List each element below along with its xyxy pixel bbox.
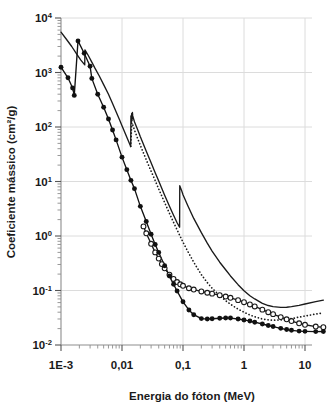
marker-filled-circle <box>76 38 81 43</box>
marker-open-circle <box>187 286 192 291</box>
data-markers <box>59 38 326 334</box>
marker-open-circle <box>313 324 318 329</box>
marker-filled-circle <box>120 155 125 160</box>
marker-filled-circle <box>217 316 222 321</box>
marker-filled-circle <box>297 329 302 334</box>
marker-filled-circle <box>95 92 100 97</box>
marker-open-circle <box>210 291 215 296</box>
marker-filled-circle <box>260 322 265 327</box>
marker-filled-circle <box>132 186 137 191</box>
marker-open-circle <box>141 224 146 229</box>
marker-open-circle <box>252 304 257 309</box>
marker-filled-circle <box>252 320 257 325</box>
y-axis-title: Coeficiente mássico (cm²/g) <box>5 105 17 258</box>
marker-filled-circle <box>271 324 276 329</box>
marker-open-circle <box>144 231 149 236</box>
marker-filled-circle <box>59 65 64 70</box>
marker-filled-circle <box>101 105 106 110</box>
x-tick-label: 0,1 <box>175 359 192 371</box>
marker-open-circle <box>289 319 294 324</box>
marker-open-circle <box>260 307 265 312</box>
marker-open-circle <box>321 325 326 330</box>
marker-filled-circle <box>124 167 129 172</box>
marker-filled-circle <box>199 316 204 321</box>
marker-filled-circle <box>247 319 252 324</box>
marker-filled-circle <box>138 204 143 209</box>
marker-open-circle <box>248 302 253 307</box>
marker-filled-circle <box>284 327 289 332</box>
y-tick-label: 100 <box>35 229 52 242</box>
x-tick-label: 10 <box>299 359 312 371</box>
marker-open-circle <box>223 294 228 299</box>
marker-filled-circle <box>72 93 77 98</box>
marker-filled-circle <box>89 76 94 81</box>
marker-filled-circle <box>236 317 241 322</box>
tick-marks <box>55 18 305 351</box>
marker-filled-circle <box>82 51 87 56</box>
marker-open-circle <box>156 256 161 261</box>
y-tick-label: 103 <box>35 66 52 79</box>
marker-filled-circle <box>167 273 172 278</box>
y-tick-label: 104 <box>35 11 53 24</box>
marker-filled-circle <box>191 312 196 317</box>
marker-open-circle <box>191 287 196 292</box>
x-tick-label: 1E-3 <box>49 359 73 371</box>
marker-filled-circle <box>242 318 247 323</box>
marker-filled-circle <box>228 316 233 321</box>
marker-filled-circle <box>321 329 326 334</box>
x-tick-labels: 1E-30,010,1110 <box>49 359 312 371</box>
marker-filled-circle <box>171 282 176 287</box>
marker-filled-circle <box>156 250 161 255</box>
marker-open-circle <box>271 312 276 317</box>
marker-filled-circle <box>153 242 158 247</box>
marker-filled-circle <box>223 316 228 321</box>
marker-filled-circle <box>266 323 271 328</box>
marker-filled-circle <box>186 307 191 312</box>
x-tick-label: 0,01 <box>111 359 134 371</box>
marker-filled-circle <box>289 328 294 333</box>
marker-open-circle <box>303 322 308 327</box>
marker-filled-circle <box>110 128 115 133</box>
marker-filled-circle <box>205 317 210 322</box>
series-path-solid-line-upper <box>61 32 323 307</box>
marker-filled-circle <box>162 263 167 268</box>
marker-filled-circle <box>70 86 75 91</box>
marker-filled-circle <box>66 75 71 80</box>
marker-filled-circle <box>114 137 119 142</box>
marker-open-circle <box>217 293 222 298</box>
marker-open-circle <box>266 310 271 315</box>
marker-open-circle <box>199 289 204 294</box>
y-tick-label: 102 <box>35 120 52 133</box>
marker-filled-circle <box>149 232 154 237</box>
chart-svg: 10410310210110010-110-2 1E-30,010,1110 E… <box>0 0 332 409</box>
marker-filled-circle <box>106 117 111 122</box>
attenuation-coefficient-chart: 10410310210110010-110-2 1E-30,010,1110 E… <box>0 0 332 409</box>
marker-open-circle <box>228 295 233 300</box>
marker-open-circle <box>278 315 283 320</box>
x-axis-title: Energia do fóton (MeV) <box>129 390 255 402</box>
y-tick-label: 10-2 <box>32 338 52 351</box>
marker-open-circle <box>284 317 289 322</box>
marker-filled-circle <box>175 289 180 294</box>
marker-filled-circle <box>210 316 215 321</box>
marker-open-circle <box>205 290 210 295</box>
marker-filled-circle <box>88 64 93 69</box>
marker-open-circle <box>297 321 302 326</box>
gridlines <box>61 18 312 345</box>
y-tick-label: 10-1 <box>32 284 52 297</box>
marker-filled-circle <box>313 329 318 334</box>
marker-open-circle <box>181 283 186 288</box>
marker-filled-circle <box>181 299 186 304</box>
marker-filled-circle <box>144 219 149 224</box>
x-tick-label: 1 <box>241 359 248 371</box>
marker-open-circle <box>149 241 154 246</box>
y-tick-labels: 10410310210110010-110-2 <box>32 11 52 351</box>
y-tick-label: 101 <box>35 175 53 188</box>
marker-open-circle <box>236 298 241 303</box>
marker-filled-circle <box>303 329 308 334</box>
marker-open-circle <box>242 300 247 305</box>
marker-filled-circle <box>278 326 283 331</box>
marker-filled-circle <box>128 178 133 183</box>
